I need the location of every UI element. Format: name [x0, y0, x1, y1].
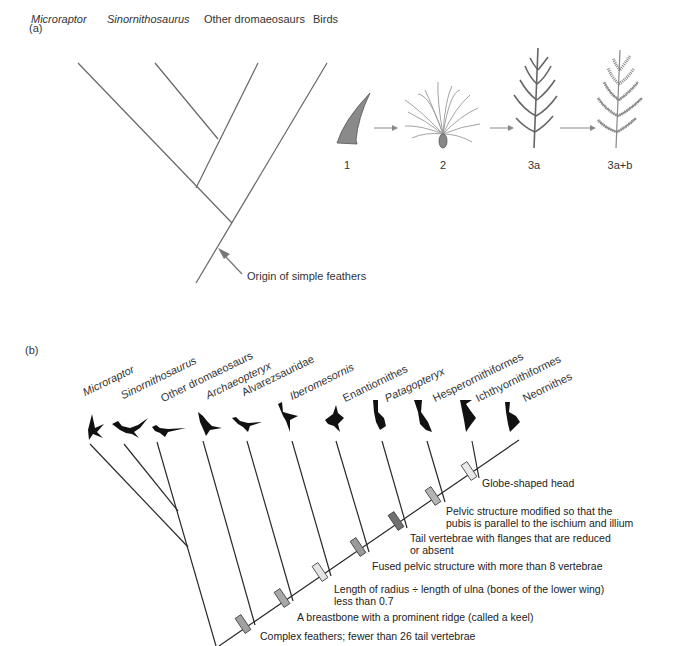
character-tail-flanges: Tail vertebrae with flanges that are red…: [410, 532, 611, 556]
rachis-barbs-barbules-icon: [598, 50, 642, 148]
panel-b-label: (b): [25, 344, 38, 356]
horn-like-filament-icon: [337, 93, 370, 144]
character-keel: A breastbone with a prominent ridge (cal…: [297, 611, 533, 623]
origin-arrow: [218, 248, 242, 274]
archaeopteryx-silhouette-icon: [198, 412, 222, 436]
feather-stage-1-label: 1: [327, 159, 367, 171]
taxon-silhouettes: [88, 400, 520, 440]
enantiornithes-silhouette-icon: [325, 405, 344, 432]
feather-stage-3a-label: 3a: [514, 159, 554, 171]
character-radius-ulna-line2: less than 0.7: [334, 595, 604, 607]
neornithes-silhouette-icon: [505, 402, 520, 432]
character-complex-feathers: Complex feathers; fewer than 26 tail ver…: [260, 630, 475, 642]
marker-complex-feathers: [235, 615, 251, 634]
tuft-of-barbs-icon: [405, 82, 480, 142]
microraptor-silhouette-icon: [88, 414, 104, 440]
character-pelvic-modified-line2: pubis is parallel to the ischium and ill…: [446, 517, 633, 529]
character-fused-pelvis: Fused pelvic structure with more than 8 …: [372, 560, 603, 572]
feather-stage-3ab-label: 3a+b: [600, 159, 640, 171]
iberomesornis-silhouette-icon: [278, 402, 298, 432]
character-globe-head: Globe-shaped head: [482, 477, 574, 489]
dromaeosaur-silhouette-icon: [152, 425, 186, 437]
character-pelvic-modified-line1: Pelvic structure modified so that the: [446, 505, 633, 517]
patagopteryx-silhouette-icon: [373, 400, 386, 430]
origin-simple-feathers-note: Origin of simple feathers: [247, 270, 366, 282]
hesperornithiformes-silhouette-icon: [414, 400, 432, 432]
character-radius-ulna: Length of radius ÷ length of ulna (bones…: [334, 583, 604, 607]
marker-radius-ulna: [312, 563, 328, 582]
character-tail-flanges-line2: or absent: [410, 544, 611, 556]
marker-keel: [274, 589, 290, 608]
alvarezsauridae-silhouette-icon: [232, 417, 262, 432]
ichthyornithiformes-silhouette-icon: [460, 400, 476, 432]
character-tail-flanges-line1: Tail vertebrae with flanges that are red…: [410, 532, 611, 544]
rachis-with-barbs-icon: [514, 48, 557, 148]
character-radius-ulna-line1: Length of radius ÷ length of ulna (bones…: [334, 583, 604, 595]
character-pelvic-modified: Pelvic structure modified so that the pu…: [446, 505, 633, 529]
feather-stage-2-label: 2: [423, 159, 463, 171]
sinornithosaurus-silhouette-icon: [112, 418, 148, 438]
